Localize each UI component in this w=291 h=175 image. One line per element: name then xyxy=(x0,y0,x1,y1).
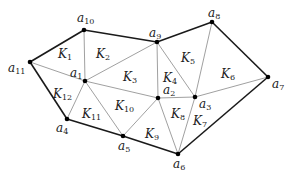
element-label-K5: K5 xyxy=(180,51,195,66)
vertex-dot-a4 xyxy=(65,117,70,122)
interior-edge-a2-a3 xyxy=(158,97,195,98)
boundary-edge-a9-a8 xyxy=(157,22,212,42)
vertex-dot-a2 xyxy=(156,96,161,101)
interior-edge-a1-a2 xyxy=(85,81,158,98)
vertex-label-a3: a3 xyxy=(199,97,211,112)
interior-edge-a10-a1 xyxy=(84,30,85,81)
element-label-K9: K9 xyxy=(144,127,159,142)
vertex-label-a7: a7 xyxy=(272,77,284,92)
vertex-dot-a6 xyxy=(176,152,181,157)
vertex-label-a11: a11 xyxy=(8,61,25,76)
element-label-K6: K6 xyxy=(220,67,235,82)
vertex-dot-a7 xyxy=(266,75,271,80)
vertex-label-a9: a9 xyxy=(149,26,161,41)
element-label-K12: K12 xyxy=(52,87,72,102)
vertex-dot-a8 xyxy=(210,20,215,25)
element-label-K11: K11 xyxy=(81,107,101,122)
interior-edge-a9-a2 xyxy=(157,42,158,98)
interior-edge-a8-a3 xyxy=(195,22,212,97)
vertex-label-a6: a6 xyxy=(173,157,185,172)
vertex-dot-a5 xyxy=(121,134,126,139)
boundary-edge-a10-a9 xyxy=(84,30,157,42)
vertex-label-a10: a10 xyxy=(77,11,94,26)
boundary-edge-a11-a10 xyxy=(30,30,84,62)
triangulation-diagram: a1a2a3a4a5a6a7a8a9a10a11 K1K2K3K4K5K6K7K… xyxy=(0,0,291,175)
vertex-label-a8: a8 xyxy=(208,6,220,21)
vertex-dot-a3 xyxy=(193,95,198,100)
vertex-dot-a11 xyxy=(28,60,33,65)
vertex-labels: a1a2a3a4a5a6a7a8a9a10a11 xyxy=(8,6,284,172)
vertex-label-a4: a4 xyxy=(56,121,68,136)
element-label-K7: K7 xyxy=(192,114,207,129)
element-label-K10: K10 xyxy=(114,99,134,114)
vertex-label-a5: a5 xyxy=(118,139,130,154)
boundary-edge-a7-a6 xyxy=(178,77,268,154)
vertex-dot-a10 xyxy=(82,28,87,33)
element-label-K2: K2 xyxy=(95,47,110,62)
vertex-label-a1: a1 xyxy=(70,66,82,81)
element-label-K3: K3 xyxy=(122,70,137,85)
vertex-dot-a1 xyxy=(83,79,88,84)
element-label-K8: K8 xyxy=(170,107,185,122)
element-label-K1: K1 xyxy=(57,47,72,62)
element-label-K4: K4 xyxy=(162,71,177,86)
